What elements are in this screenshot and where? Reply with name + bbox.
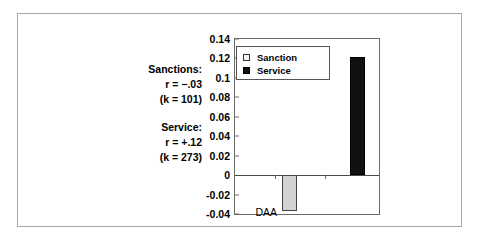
y-axis-tick-label: 0.12 [210,53,230,64]
y-axis-tick-mark [235,136,239,137]
y-axis-tick-mark [235,97,239,98]
filled-square-swatch-icon [243,67,250,74]
x-axis-tick-mark [325,175,326,179]
x-axis-tick-mark [275,175,276,179]
y-axis-tick-label: 0.08 [210,92,230,103]
annotation-text-block: Sanctions: r = −.03 (k = 101) Service: r… [78,62,202,165]
annotation-sanctions-r: r = −.03 [78,77,202,92]
legend-item-service: Service [243,64,329,77]
bar-sanction [282,175,297,211]
bar-service [350,57,365,175]
annotation-service-heading: Service: [78,120,202,135]
y-axis-tick-label: -0.04 [206,209,230,220]
annotation-service-k: (k = 273) [78,150,202,165]
y-axis-tick-label: 0.02 [210,150,230,161]
annotation-sanctions-heading: Sanctions: [78,62,202,77]
y-axis-tick-label: 0.04 [210,131,230,142]
legend-label-service: Service [257,66,291,76]
y-axis-tick-label: 0.06 [210,112,230,123]
y-axis-tick-label: 0.14 [210,34,230,45]
y-axis-tick-label: 0.1 [215,73,230,84]
annotation-service-r: r = +.12 [78,135,202,150]
legend-item-sanction: Sanction [243,51,329,64]
y-axis-tick-mark [235,214,239,215]
y-axis-tick-label: -0.02 [206,189,230,200]
category-label-daa: DAA [256,207,278,218]
y-axis-tick-mark [235,194,239,195]
open-square-swatch-icon [243,54,250,61]
annotation-spacer [78,107,202,120]
chart-legend: Sanction Service [236,46,330,80]
y-axis-tick-mark [235,155,239,156]
annotation-sanctions-k: (k = 101) [78,92,202,107]
y-axis-tick-label: 0 [224,170,230,181]
zero-baseline [235,175,379,176]
legend-label-sanction: Sanction [257,53,297,63]
y-axis-tick-mark [235,116,239,117]
chart-figure: Sanctions: r = −.03 (k = 101) Service: r… [0,0,480,237]
figure-outer-frame: Sanctions: r = −.03 (k = 101) Service: r… [17,13,462,227]
y-axis-tick-mark [235,39,239,40]
